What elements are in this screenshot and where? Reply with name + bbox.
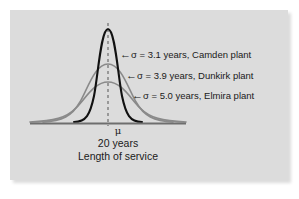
annotation-elmira-text: σ = 5.0 years, Elmira plant <box>143 91 254 101</box>
mean-value-label: 20 years <box>33 137 203 149</box>
annotation-camden: ←σ = 3.1 years, Camden plant <box>120 49 251 60</box>
arrow-left-icon-elmira: ← <box>132 90 142 101</box>
annotation-dunkirk: ←σ = 3.9 years, Dunkirk plant <box>126 70 254 81</box>
figure-root: ←σ = 3.1 years, Camden plant ←σ = 3.9 ye… <box>0 0 299 199</box>
mean-symbol-label: μ <box>33 125 203 136</box>
arrow-left-icon-dunkirk: ← <box>126 70 136 81</box>
annotation-camden-text: σ = 3.1 years, Camden plant <box>131 50 251 60</box>
x-axis-title: Length of service <box>33 150 203 162</box>
annotation-dunkirk-text: σ = 3.9 years, Dunkirk plant <box>137 71 254 81</box>
figure-panel: ←σ = 3.1 years, Camden plant ←σ = 3.9 ye… <box>10 10 288 180</box>
arrow-left-icon-camden: ← <box>120 49 130 60</box>
annotation-elmira: ←σ = 5.0 years, Elmira plant <box>132 90 254 101</box>
